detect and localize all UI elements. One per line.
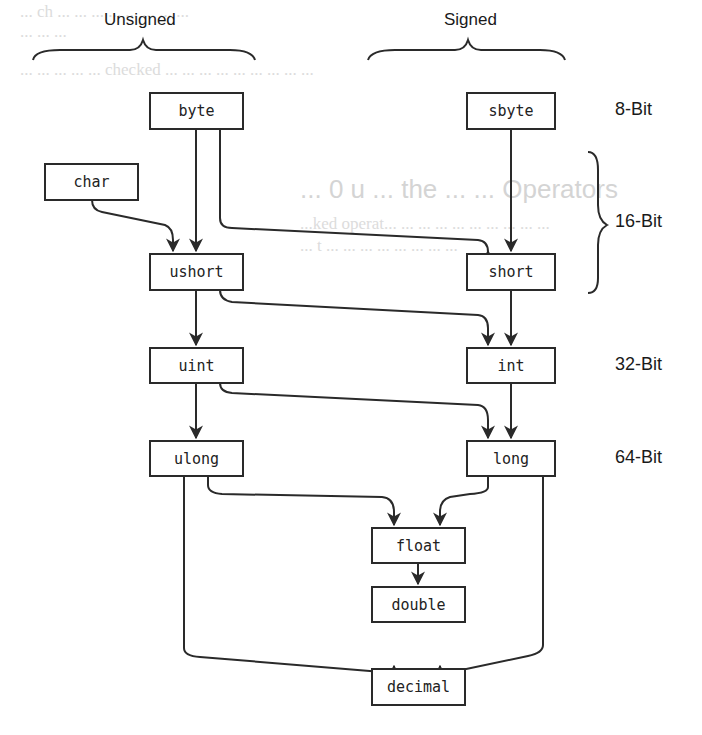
node-decimal: decimal [371, 668, 466, 706]
node-sbyte: sbyte [466, 92, 556, 130]
unsigned-brace-icon [33, 40, 255, 60]
node-byte: byte [149, 92, 244, 130]
node-float: float [371, 527, 466, 564]
label-16-bit: 16-Bit [615, 211, 662, 232]
node-char: char [44, 163, 139, 201]
node-int: int [466, 347, 556, 384]
node-ushort: ushort [149, 253, 244, 291]
node-double: double [371, 586, 466, 623]
connector-lines [0, 0, 702, 735]
16bit-brace-icon [588, 152, 607, 293]
node-long: long [466, 440, 556, 477]
node-ulong: ulong [149, 440, 244, 477]
label-64-bit: 64-Bit [615, 447, 662, 468]
label-8-bit: 8-Bit [615, 99, 652, 120]
type-conversion-diagram: ... ch ... ... ... ... ... ... ... ... .… [0, 0, 702, 735]
label-32-bit: 32-Bit [615, 354, 662, 375]
node-short: short [466, 253, 556, 291]
signed-brace-icon [368, 40, 565, 60]
node-uint: uint [149, 347, 244, 384]
